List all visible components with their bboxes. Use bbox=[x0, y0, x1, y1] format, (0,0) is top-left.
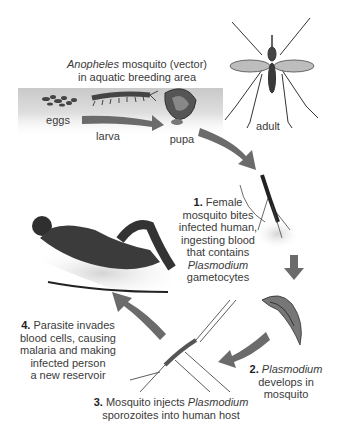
step-3-italic: Plasmodium bbox=[188, 396, 249, 408]
step-1-line: Female bbox=[206, 196, 243, 208]
label-pupa: pupa bbox=[162, 133, 202, 146]
arrow-pupa-to-step1 bbox=[198, 128, 256, 170]
label-eggs: eggs bbox=[38, 114, 78, 127]
label-adult: adult bbox=[248, 120, 288, 133]
step-4-line: blood cells, causing bbox=[20, 332, 116, 344]
arrow-step1-to-step2 bbox=[284, 255, 304, 280]
step-4-line: Parasite invades bbox=[33, 319, 114, 331]
step-4-number: 4. bbox=[21, 319, 30, 331]
step-3-text: 3. Mosquito injects Plasmodium sporozoit… bbox=[86, 396, 256, 421]
step-2-italic: Plasmodium bbox=[262, 363, 323, 375]
step-4-text: 4. Parasite invades blood cells, causing… bbox=[16, 319, 120, 382]
step-2-text: 2. Plasmodium develops in mosquito bbox=[244, 363, 328, 401]
step-1-line: ingesting blood bbox=[181, 234, 255, 246]
step-1-number: 1. bbox=[194, 196, 203, 208]
step-1-text: 1. Female mosquito bites infected human,… bbox=[176, 196, 260, 284]
step-1-line: infected human, bbox=[179, 221, 257, 233]
arrow-step3-to-step4 bbox=[112, 292, 166, 340]
step-1-line: that contains bbox=[187, 246, 249, 258]
step-1-italic: Plasmodium bbox=[188, 259, 249, 271]
title-species: Anopheles bbox=[67, 58, 119, 70]
step-3-line: sporozoites into human host bbox=[102, 409, 240, 421]
title-line1: mosquito (vector) bbox=[119, 58, 207, 70]
step-2-line: mosquito bbox=[264, 388, 309, 400]
step-4-line: infected person bbox=[30, 357, 105, 369]
infected-human-illustration bbox=[30, 216, 175, 296]
vector-title: Anopheles mosquito (vector) in aquatic b… bbox=[62, 58, 212, 83]
title-line2: in aquatic breeding area bbox=[78, 71, 196, 83]
injecting-mosquito-illustration bbox=[130, 300, 236, 392]
step-3-number: 3. bbox=[94, 396, 103, 408]
label-larva: larva bbox=[88, 130, 128, 143]
step-4-line: malaria and making bbox=[20, 344, 116, 356]
step-1-line: mosquito bites bbox=[183, 209, 254, 221]
step-2-number: 2. bbox=[250, 363, 259, 375]
step-1-line: gametocytes bbox=[187, 271, 249, 283]
step-2-line: develops in bbox=[258, 376, 314, 388]
step-3-line: Mosquito injects bbox=[106, 396, 188, 408]
step-4-line: a new reservoir bbox=[30, 369, 105, 381]
adult-mosquito-illustration bbox=[225, 18, 318, 128]
